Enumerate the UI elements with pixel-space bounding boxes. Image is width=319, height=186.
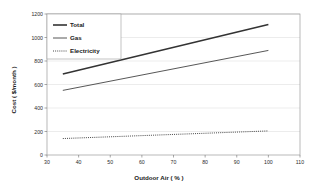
x-axis-title: Outdoor Air ( % )	[134, 174, 183, 181]
x-tick-label: 70	[171, 159, 177, 165]
chart-container: 020040060080010001200 304050607080901001…	[0, 0, 319, 186]
y-tick-label: 200	[34, 129, 43, 135]
y-axis-title: Cost ( $/month )	[10, 66, 17, 113]
y-tick-label: 1200	[31, 11, 43, 17]
x-tick-label: 100	[264, 159, 273, 165]
y-tick-label: 600	[34, 82, 43, 88]
x-tick-label: 60	[139, 159, 145, 165]
legend-label-electricity: Electricity	[70, 47, 100, 54]
y-tick-label: 400	[34, 105, 43, 111]
y-tick-label: 0	[40, 152, 43, 158]
legend-label-gas: Gas	[70, 34, 82, 41]
x-tick-label: 110	[296, 159, 304, 165]
legend-label-total: Total	[70, 21, 85, 28]
x-tick-label: 40	[76, 159, 82, 165]
line-chart: 020040060080010001200 304050607080901001…	[0, 0, 319, 186]
x-tick-label: 90	[234, 159, 240, 165]
x-tick-label: 80	[202, 159, 208, 165]
y-tick-label: 800	[34, 58, 43, 64]
y-tick-label: 1000	[31, 35, 43, 41]
chart-legend: TotalGasElectricity	[47, 14, 121, 59]
x-tick-label: 50	[107, 159, 113, 165]
x-tick-label: 30	[44, 159, 50, 165]
